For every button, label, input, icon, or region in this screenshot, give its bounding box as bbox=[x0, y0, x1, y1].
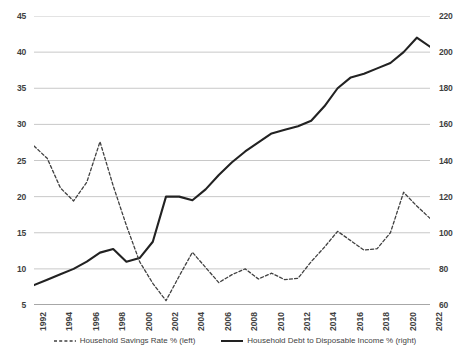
y-left-tick-label: 20 bbox=[0, 192, 26, 202]
y-right-tick-label: 220 bbox=[439, 11, 453, 21]
x-tick-label: 1998 bbox=[117, 312, 127, 331]
y-left-tick-label: 5 bbox=[0, 300, 26, 310]
legend-swatch-solid bbox=[221, 337, 243, 345]
y-right-tick-label: 60 bbox=[439, 300, 448, 310]
y-right-tick-label: 80 bbox=[439, 264, 448, 274]
x-tick-label: 2008 bbox=[249, 312, 259, 331]
x-tick-label: 1992 bbox=[38, 312, 48, 331]
legend-item-savings: Household Savings Rate % (left) bbox=[54, 336, 196, 345]
plot-area bbox=[34, 16, 430, 305]
y-right-tick-label: 120 bbox=[439, 192, 453, 202]
y-right-tick-label: 160 bbox=[439, 119, 453, 129]
y-left-tick-label: 40 bbox=[0, 47, 26, 57]
y-left-tick-label: 15 bbox=[0, 228, 26, 238]
x-tick-label: 2014 bbox=[328, 312, 338, 331]
series-line-debt bbox=[34, 38, 430, 285]
y-left-tick-label: 45 bbox=[0, 11, 26, 21]
y-left-tick-label: 30 bbox=[0, 119, 26, 129]
x-tick-label: 2002 bbox=[170, 312, 180, 331]
legend-label-debt: Household Debt to Disposable Income % (r… bbox=[247, 336, 416, 345]
chart-svg bbox=[34, 16, 430, 305]
x-tick-label: 2018 bbox=[381, 312, 391, 331]
x-tick-label: 2000 bbox=[144, 312, 154, 331]
y-right-tick-label: 140 bbox=[439, 156, 453, 166]
x-tick-label: 2016 bbox=[355, 312, 365, 331]
y-right-tick-label: 100 bbox=[439, 228, 453, 238]
series-line-savings bbox=[34, 142, 430, 301]
x-tick-label: 2012 bbox=[302, 312, 312, 331]
y-right-tick-label: 200 bbox=[439, 47, 453, 57]
x-tick-label: 2006 bbox=[223, 312, 233, 331]
legend-item-debt: Household Debt to Disposable Income % (r… bbox=[221, 336, 416, 345]
x-tick-label: 2004 bbox=[196, 312, 206, 331]
chart-container: 51015202530354045 6080100120140160180200… bbox=[0, 0, 470, 358]
y-left-tick-label: 35 bbox=[0, 83, 26, 93]
x-tick-label: 1996 bbox=[91, 312, 101, 331]
y-left-tick-label: 25 bbox=[0, 156, 26, 166]
x-tick-label: 2022 bbox=[434, 312, 444, 331]
x-tick-label: 2010 bbox=[276, 312, 286, 331]
chart-legend: Household Savings Rate % (left) Househol… bbox=[0, 336, 470, 345]
legend-swatch-dashed bbox=[54, 337, 76, 345]
y-right-tick-label: 180 bbox=[439, 83, 453, 93]
legend-label-savings: Household Savings Rate % (left) bbox=[80, 336, 196, 345]
x-tick-label: 2020 bbox=[408, 312, 418, 331]
y-left-tick-label: 10 bbox=[0, 264, 26, 274]
x-tick-label: 1994 bbox=[64, 312, 74, 331]
